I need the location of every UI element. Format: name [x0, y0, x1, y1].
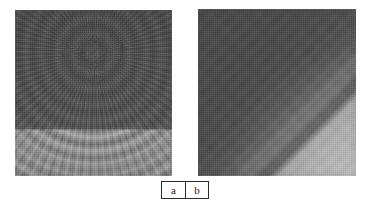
- figure-container: a b: [0, 0, 367, 212]
- caption-table: a b: [161, 181, 209, 199]
- caption-cell-a: a: [162, 182, 185, 198]
- image-panel-b: [198, 9, 356, 176]
- panel-a-vertical-streaks: [15, 10, 172, 176]
- panel-b-corner-highlight: [198, 9, 356, 176]
- caption-cell-b: b: [185, 182, 208, 198]
- image-panel-a: [15, 10, 172, 176]
